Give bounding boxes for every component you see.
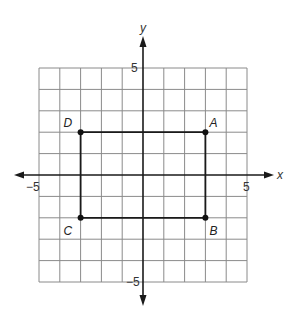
point-a-label: A <box>208 116 217 130</box>
coordinate-plane: x y −5 5 5 −5 ABCD <box>0 0 295 324</box>
axes: x y −5 5 5 −5 <box>14 21 284 306</box>
point-c-marker <box>78 215 84 221</box>
y-axis-label: y <box>139 21 147 35</box>
point-b-marker <box>202 215 208 221</box>
y-axis-up-arrow-icon <box>140 36 147 47</box>
x-max-tick-label: 5 <box>243 180 250 194</box>
x-axis-label: x <box>276 168 284 182</box>
x-min-tick-label: −5 <box>26 180 40 194</box>
point-c-label: C <box>64 224 73 238</box>
y-max-tick-label: 5 <box>131 61 138 75</box>
points: ABCD <box>64 116 218 238</box>
point-b-label: B <box>209 224 217 238</box>
y-axis-down-arrow-icon <box>140 295 147 306</box>
x-axis-left-arrow-icon <box>14 172 24 179</box>
y-min-tick-label: −5 <box>126 275 140 289</box>
point-d-marker <box>78 129 84 135</box>
point-d-label: D <box>64 116 73 130</box>
x-axis-right-arrow-icon <box>264 172 274 179</box>
point-a-marker <box>202 129 208 135</box>
